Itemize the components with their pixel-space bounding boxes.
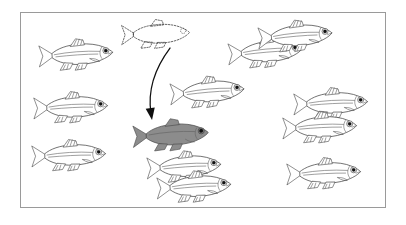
fish-shoal-figure <box>0 0 406 225</box>
figure-root: Fish shoal with focal individual shoal m… <box>0 0 406 225</box>
